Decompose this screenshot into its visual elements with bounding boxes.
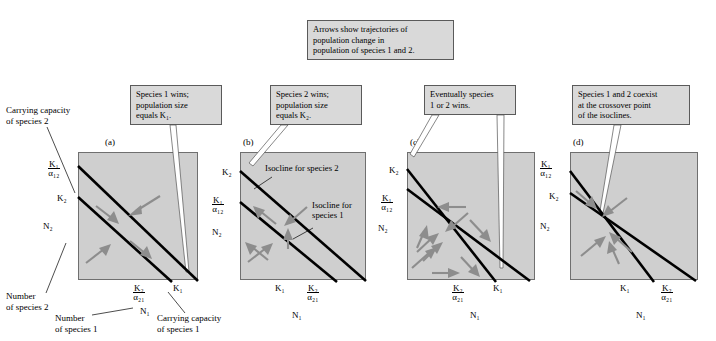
- tick-denominator: α₂₁: [661, 293, 673, 301]
- panel-c-arrows: [412, 202, 491, 278]
- callout-pointer-d: [600, 125, 621, 213]
- tick-denominator: α₁₂: [381, 203, 393, 211]
- annotation-carrying-capacity-species-2: Carrying capacity of species 2: [6, 105, 70, 127]
- callout-pointer-c2: [497, 115, 504, 268]
- annotation-line: Number: [55, 313, 98, 324]
- callout-pointer-a: [170, 125, 189, 272]
- panel-c-x-axis-label: N₁: [470, 311, 480, 320]
- panel-c-y-tick-2: K₁α₁₂: [381, 194, 393, 212]
- panel-c-y-tick-1: K₂: [389, 166, 399, 175]
- annotation-number-of-species-1: Number of species 1: [55, 313, 98, 335]
- annotation-line: of species 1: [157, 324, 221, 335]
- panel-b-y-axis-label: N₂: [212, 228, 222, 237]
- competition-isocline-figure: Arrows show trajectories of population c…: [0, 0, 716, 341]
- panel-d-y-tick-1: K₁α₁₂: [540, 160, 552, 178]
- leader-isocline-species-2: [254, 177, 272, 189]
- tick-denominator: α₂₁: [307, 293, 319, 301]
- panel-b-y-tick-2: K₁α₁₂: [212, 196, 224, 214]
- panel-c-x-tick-2: K₁: [493, 284, 503, 293]
- annotation-line: of species 2: [6, 302, 49, 313]
- figure-vector-layer: [0, 0, 716, 341]
- panel-b-x-tick-2: K₂α₂₁: [307, 284, 319, 302]
- annotation-line: of species 2: [6, 116, 70, 127]
- panel-a-y-tick-2: K₂: [57, 194, 67, 203]
- annotation-isocline-species-1: Isocline for species 1: [312, 200, 352, 220]
- callout-pointer-c1: [410, 115, 439, 157]
- annotation-isocline-species-2: Isocline for species 2: [265, 163, 339, 173]
- leader-carrying-capacity-species-1: [168, 292, 185, 313]
- tick-denominator: α₂₁: [452, 293, 464, 301]
- panel-d-x-tick-2: K₂α₂₁: [661, 284, 673, 302]
- annotation-line: of species 1: [55, 324, 98, 335]
- leader-number-of-species-1: [92, 308, 133, 315]
- panel-b-x-axis-label: N₁: [292, 311, 302, 320]
- panel-b-x-tick-1: K₁: [275, 284, 285, 293]
- panel-a-x-axis-label: N₁: [140, 307, 150, 316]
- panel-a-arrows: [86, 196, 160, 263]
- tick-denominator: α₁₂: [48, 169, 60, 177]
- panel-c-x-tick-1: K₂α₂₁: [452, 284, 464, 302]
- panel-d-x-tick-1: K₁: [620, 284, 630, 293]
- panel-a-x-tick-2: K₁: [173, 284, 183, 293]
- tick-denominator: α₂₁: [133, 293, 145, 301]
- panel-d-x-axis-label: N₁: [636, 311, 646, 320]
- panel-d-y-tick-2: K₂: [549, 192, 559, 201]
- panel-a-y-tick-1: K₁α₁₂: [48, 160, 60, 178]
- tick-denominator: α₁₂: [540, 169, 552, 177]
- panel-a-x-tick-1: K₂α₂₁: [133, 284, 145, 302]
- annotation-line: Number: [6, 291, 49, 302]
- callout-pointer-b: [249, 125, 288, 166]
- annotation-line: species 1: [312, 210, 352, 220]
- panel-a-y-axis-label: N₂: [43, 222, 53, 231]
- annotation-carrying-capacity-species-1: Carrying capacity of species 1: [157, 313, 221, 335]
- annotation-line: Carrying capacity: [157, 313, 221, 324]
- tick-denominator: α₁₂: [212, 205, 224, 213]
- panel-d-isocline-species-1: [570, 171, 654, 282]
- panel-b-isocline-species-2: [240, 171, 366, 281]
- annotation-line: Carrying capacity: [6, 105, 70, 116]
- panel-b-y-tick-1: K₂: [222, 168, 232, 177]
- panel-d-y-axis-label: N₂: [540, 222, 550, 231]
- annotation-number-of-species-2: Number of species 2: [6, 291, 49, 313]
- annotation-line: Isocline for: [312, 200, 352, 210]
- leader-number-of-species-2: [46, 243, 66, 293]
- panel-c-y-axis-label: N₂: [378, 224, 388, 233]
